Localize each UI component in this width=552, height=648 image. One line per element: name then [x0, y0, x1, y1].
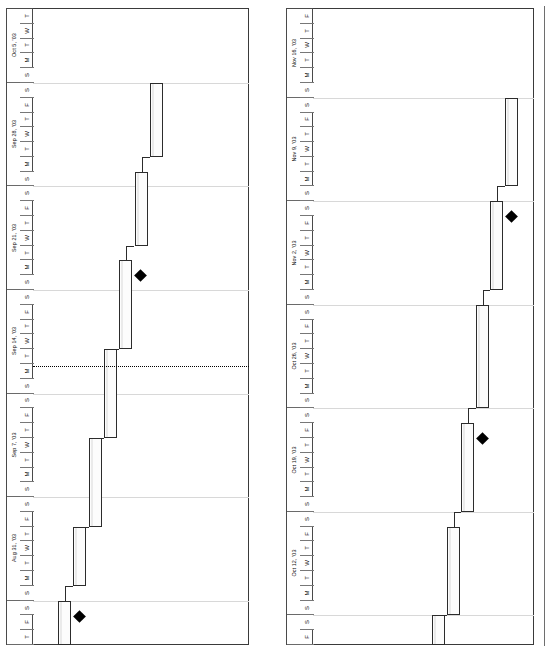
- day-label: T: [304, 132, 310, 136]
- task-bar[interactable]: [476, 305, 489, 409]
- task-bar[interactable]: [73, 527, 86, 586]
- day-label: T: [304, 339, 310, 343]
- day-cell: M: [300, 172, 314, 187]
- day-cell: F: [20, 408, 34, 423]
- day-cell: T: [20, 527, 34, 542]
- day-cell: W: [20, 24, 34, 39]
- week-header-left-6: Oct 5, '03: [7, 9, 20, 83]
- day-label: F: [304, 635, 310, 639]
- day-label: S: [24, 280, 30, 284]
- day-label: T: [24, 147, 30, 151]
- task-bar[interactable]: [447, 527, 460, 616]
- day-label: S: [24, 73, 30, 77]
- day-label: T: [24, 44, 30, 48]
- week-header-right-6: Nov 16, '03: [287, 9, 300, 98]
- day-cell: T: [300, 24, 314, 39]
- day-label: S: [24, 591, 30, 595]
- day-label: M: [24, 575, 30, 580]
- day-label: M: [24, 58, 30, 63]
- week-gridline-right-3: [313, 305, 534, 306]
- day-label: W: [304, 457, 310, 463]
- day-cell: S: [300, 497, 314, 512]
- week-gridline-left-3: [33, 290, 249, 291]
- day-label: T: [24, 561, 30, 565]
- day-cell: T: [20, 453, 34, 468]
- day-cell: W: [300, 246, 314, 261]
- day-cell: W: [20, 127, 34, 142]
- dependency-link-horizontal: [111, 349, 119, 350]
- task-bar[interactable]: [58, 601, 71, 645]
- day-cell: T: [300, 364, 314, 379]
- day-label: M: [24, 265, 30, 270]
- day-cell: W: [300, 142, 314, 157]
- day-cell: S: [300, 98, 314, 113]
- dependency-link-horizontal: [96, 438, 104, 439]
- day-cell: M: [300, 68, 314, 83]
- week-header-left-1: Aug 31, '03: [7, 497, 20, 601]
- day-cell: S: [300, 408, 314, 423]
- day-cell: S: [20, 68, 34, 83]
- week-header-right-2: Oct 19, '03: [287, 408, 300, 512]
- day-label: T: [304, 29, 310, 33]
- day-cell: T: [20, 349, 34, 364]
- day-label: F: [24, 206, 30, 210]
- day-label: T: [24, 118, 30, 122]
- day-label: S: [304, 517, 310, 521]
- day-label: T: [24, 428, 30, 432]
- dependency-link-vertical: [497, 186, 498, 201]
- task-bar[interactable]: [150, 83, 163, 157]
- day-label: T: [24, 251, 30, 255]
- task-bar[interactable]: [432, 615, 445, 645]
- day-cell: T: [20, 556, 34, 571]
- task-bar[interactable]: [104, 349, 117, 438]
- day-label: S: [24, 398, 30, 402]
- week-header-left-4: Sep 21, '03: [7, 186, 20, 290]
- day-label: W: [304, 560, 310, 566]
- day-cell: S: [20, 586, 34, 601]
- day-label: M: [24, 472, 30, 477]
- day-label: F: [304, 221, 310, 225]
- day-cell: F: [300, 113, 314, 128]
- day-label: S: [24, 177, 30, 181]
- task-bar[interactable]: [135, 172, 148, 246]
- day-label: F: [24, 620, 30, 624]
- task-bar[interactable]: [89, 438, 102, 527]
- day-cell: S: [20, 601, 34, 616]
- day-label: T: [304, 236, 310, 240]
- dependency-link-vertical: [454, 512, 455, 527]
- day-cell: S: [20, 186, 34, 201]
- left-panel: TFSAug 31, '03SMTWTFSSep 7, '03SMTWTFSSe…: [0, 0, 276, 648]
- task-bar[interactable]: [119, 260, 132, 349]
- task-bar[interactable]: [490, 201, 503, 290]
- day-cell: W: [20, 438, 34, 453]
- day-cell: M: [20, 364, 34, 379]
- day-label: T: [24, 14, 30, 18]
- week-header-left-0: [7, 601, 20, 645]
- day-label: T: [304, 265, 310, 269]
- day-cell: T: [300, 231, 314, 246]
- week-header-label: Oct 19, '03: [291, 446, 297, 473]
- day-cell: T: [300, 334, 314, 349]
- day-cell: T: [20, 423, 34, 438]
- task-bar[interactable]: [505, 98, 518, 187]
- day-cell: W: [300, 39, 314, 54]
- task-bar[interactable]: [461, 423, 474, 512]
- dependency-link-horizontal: [65, 586, 73, 587]
- day-label: S: [304, 502, 310, 506]
- right-panel-frame: [286, 8, 534, 645]
- day-label: S: [24, 502, 30, 506]
- dependency-link-vertical: [468, 408, 469, 423]
- day-cell: F: [300, 320, 314, 335]
- day-cell: S: [20, 379, 34, 394]
- day-cell: T: [300, 260, 314, 275]
- day-cell: T: [300, 541, 314, 556]
- day-cell: S: [20, 83, 34, 98]
- day-label: W: [24, 28, 30, 34]
- day-label: S: [304, 310, 310, 314]
- day-cell: T: [300, 53, 314, 68]
- week-header-label: Nov 2, '03: [291, 240, 297, 265]
- day-cell: S: [20, 172, 34, 187]
- week-gridline-right-1: [313, 512, 534, 513]
- day-cell: F: [300, 423, 314, 438]
- day-cell: S: [20, 290, 34, 305]
